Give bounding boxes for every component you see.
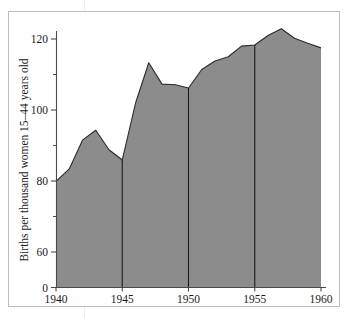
y-tick-label-60: 60 bbox=[37, 246, 49, 258]
x-tick-label-1945: 1945 bbox=[111, 293, 134, 305]
x-axis-tick-labels: 19401945195019551960 bbox=[45, 293, 333, 305]
x-tick-label-1950: 1950 bbox=[177, 293, 200, 305]
y-axis-tick-labels: 06080100120 bbox=[31, 33, 49, 294]
y-axis-ticks bbox=[51, 39, 57, 288]
y-tick-label-100: 100 bbox=[31, 104, 49, 116]
y-tick-label-80: 80 bbox=[37, 175, 49, 187]
figure-canvas: 06080100120 19401945195019551960 Births … bbox=[0, 0, 348, 318]
x-tick-label-1940: 1940 bbox=[45, 293, 68, 305]
x-axis-ticks bbox=[56, 288, 321, 292]
x-tick-label-1960: 1960 bbox=[310, 293, 333, 305]
birth-rate-area-chart: 06080100120 19401945195019551960 Births … bbox=[0, 0, 348, 318]
y-axis-title: Births per thousand women 15–44 years ol… bbox=[18, 58, 31, 261]
x-tick-label-1955: 1955 bbox=[243, 293, 266, 305]
y-tick-label-120: 120 bbox=[31, 33, 49, 45]
